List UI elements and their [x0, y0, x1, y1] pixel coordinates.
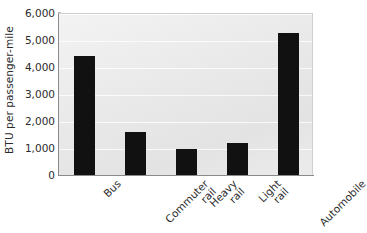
y-axis-title-text: BTU per passenger-mile	[3, 26, 15, 154]
y-axis-tick-label: 5,000	[25, 34, 55, 46]
y-axis-tick-label: 3,000	[25, 88, 55, 100]
gridline	[59, 122, 312, 123]
y-axis-tick-label: 6,000	[25, 7, 55, 19]
x-axis-tick-label: Lightrail	[256, 178, 290, 212]
y-axis-tick-labels: 6,0005,0004,0003,0002,0001,0000	[16, 10, 58, 178]
gridline	[59, 95, 312, 96]
bar-bus[interactable]	[74, 56, 95, 175]
x-axis-tick-label-line1: Automobile	[316, 177, 367, 228]
y-axis-tick-label: 1,000	[25, 142, 55, 154]
x-axis-tick-label-line1: Bus	[100, 177, 122, 199]
gridline	[59, 41, 312, 42]
x-axis-tick-label: Bus	[101, 178, 122, 199]
bar-heavy-rail[interactable]	[176, 149, 197, 175]
gridline	[59, 14, 312, 15]
plot-area	[58, 13, 313, 175]
y-axis-tick-label: 0	[48, 169, 55, 181]
x-axis-tick-label: Commuterrail	[163, 178, 218, 233]
y-axis-tick-label: 2,000	[25, 115, 55, 127]
bar-automobile[interactable]	[278, 33, 299, 175]
y-axis-tick-label: 4,000	[25, 61, 55, 73]
x-axis-tick-label: Automobile	[317, 178, 367, 228]
x-axis-tick-labels: BusCommuterrailHeavyrailLightrailAutomob…	[58, 176, 316, 227]
bar-commuter-rail[interactable]	[125, 132, 146, 175]
x-axis-tick-label: Heavyrail	[207, 178, 246, 217]
bar-light-rail[interactable]	[227, 143, 248, 175]
gridline	[59, 68, 312, 69]
